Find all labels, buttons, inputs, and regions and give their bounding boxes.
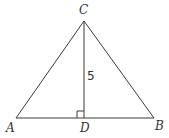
vertex-label-b: B [154, 119, 164, 133]
segment-ac [16, 21, 84, 118]
length-label-cd: 5 [87, 69, 95, 83]
triangle-diagram: C A B D 5 [0, 0, 169, 138]
right-angle-marker [77, 111, 84, 118]
vertex-label-c: C [79, 3, 88, 17]
vertex-label-d: D [79, 121, 90, 135]
vertex-label-a: A [5, 121, 15, 135]
